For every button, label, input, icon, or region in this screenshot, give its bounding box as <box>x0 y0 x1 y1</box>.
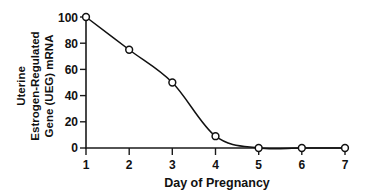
x-tick-label-2: 2 <box>126 158 133 172</box>
y-axis-title-line-1: Uterine <box>15 66 27 106</box>
data-point-markers <box>83 14 349 152</box>
x-axis <box>86 148 348 155</box>
y-axis-tick-labels: 0 20 40 60 80 100 <box>58 11 78 155</box>
uterine-ueg-mrna-line-chart: Uterine Estrogen-Regulated Gene (UEG) mR… <box>0 0 366 193</box>
y-tick-label-20: 20 <box>65 115 79 129</box>
y-axis-title-line-2: Estrogen-Regulated <box>29 31 41 140</box>
x-tick-label-6: 6 <box>298 158 305 172</box>
x-axis-tick-labels: 1 2 3 4 5 6 7 <box>83 158 349 172</box>
x-tick-label-4: 4 <box>212 158 219 172</box>
x-tick-label-1: 1 <box>83 158 90 172</box>
x-axis-title: Day of Pregnancy <box>164 176 270 190</box>
y-tick-label-100: 100 <box>58 11 78 25</box>
x-tick-label-3: 3 <box>169 158 176 172</box>
data-point-day-4 <box>212 133 219 140</box>
y-axis-title: Uterine Estrogen-Regulated Gene (UEG) mR… <box>15 31 55 140</box>
data-point-day-7 <box>342 145 349 152</box>
data-point-day-1 <box>83 14 90 21</box>
chart-page: Uterine Estrogen-Regulated Gene (UEG) mR… <box>0 0 366 193</box>
data-point-day-5 <box>255 145 262 152</box>
x-tick-label-7: 7 <box>342 158 349 172</box>
x-tick-label-5: 5 <box>255 158 262 172</box>
data-series-curve <box>86 17 345 149</box>
y-axis <box>80 17 86 148</box>
y-tick-label-60: 60 <box>65 63 79 77</box>
y-tick-label-80: 80 <box>65 37 79 51</box>
y-tick-label-0: 0 <box>71 141 78 155</box>
data-point-day-6 <box>298 145 305 152</box>
data-point-day-2 <box>126 46 133 53</box>
y-axis-title-line-3: Gene (UEG) mRNA <box>43 35 55 138</box>
y-tick-label-40: 40 <box>65 89 79 103</box>
data-point-day-3 <box>169 79 176 86</box>
